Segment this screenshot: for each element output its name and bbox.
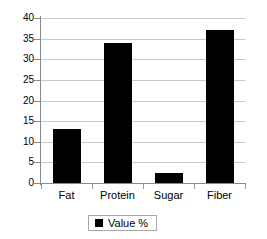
y-tick-mark bbox=[34, 121, 40, 122]
x-tick-label-fat: Fat bbox=[41, 188, 92, 202]
bar-slot bbox=[41, 18, 92, 183]
y-tick-label: 35 bbox=[8, 34, 34, 44]
y-tick-mark bbox=[34, 59, 40, 60]
legend-square-marker-icon bbox=[95, 219, 103, 227]
y-tick-mark bbox=[34, 162, 40, 163]
y-tick-label: 30 bbox=[8, 54, 34, 64]
bar-sugar bbox=[155, 173, 183, 183]
bar-fiber bbox=[206, 30, 234, 183]
chart-legend: Value % bbox=[88, 215, 157, 231]
x-tick-label-fiber: Fiber bbox=[194, 188, 245, 202]
y-tick-label: 40 bbox=[8, 13, 34, 23]
bar-series-value-percent bbox=[41, 18, 245, 183]
y-tick-mark bbox=[34, 39, 40, 40]
x-tick-mark bbox=[92, 184, 93, 189]
y-tick-mark bbox=[34, 18, 40, 19]
x-tick-mark bbox=[245, 184, 246, 189]
bar-protein bbox=[104, 43, 132, 183]
y-tick-mark bbox=[34, 101, 40, 102]
x-tick-label-protein: Protein bbox=[92, 188, 143, 202]
x-tick-mark bbox=[194, 184, 195, 189]
y-tick-label: 15 bbox=[8, 116, 34, 126]
bar-slot bbox=[143, 18, 194, 183]
y-tick-mark bbox=[34, 142, 40, 143]
y-tick-label: 25 bbox=[8, 75, 34, 85]
x-tick-mark bbox=[41, 184, 42, 189]
legend-label: Value % bbox=[108, 218, 148, 229]
y-tick-label: 0 bbox=[8, 178, 34, 188]
y-tick-label: 20 bbox=[8, 96, 34, 106]
y-tick-mark bbox=[34, 80, 40, 81]
x-axis-line bbox=[33, 183, 246, 184]
x-axis-labels: FatProteinSugarFiber bbox=[41, 188, 245, 204]
y-tick-mark bbox=[34, 183, 40, 184]
bar-slot bbox=[194, 18, 245, 183]
bar-chart: 0510152025303540 FatProteinSugarFiber Va… bbox=[0, 0, 267, 239]
y-axis-labels: 0510152025303540 bbox=[0, 0, 34, 239]
x-tick-label-sugar: Sugar bbox=[143, 188, 194, 202]
y-tick-label: 5 bbox=[8, 157, 34, 167]
y-tick-label: 10 bbox=[8, 137, 34, 147]
bar-slot bbox=[92, 18, 143, 183]
x-tick-mark bbox=[143, 184, 144, 189]
bar-fat bbox=[53, 129, 81, 183]
